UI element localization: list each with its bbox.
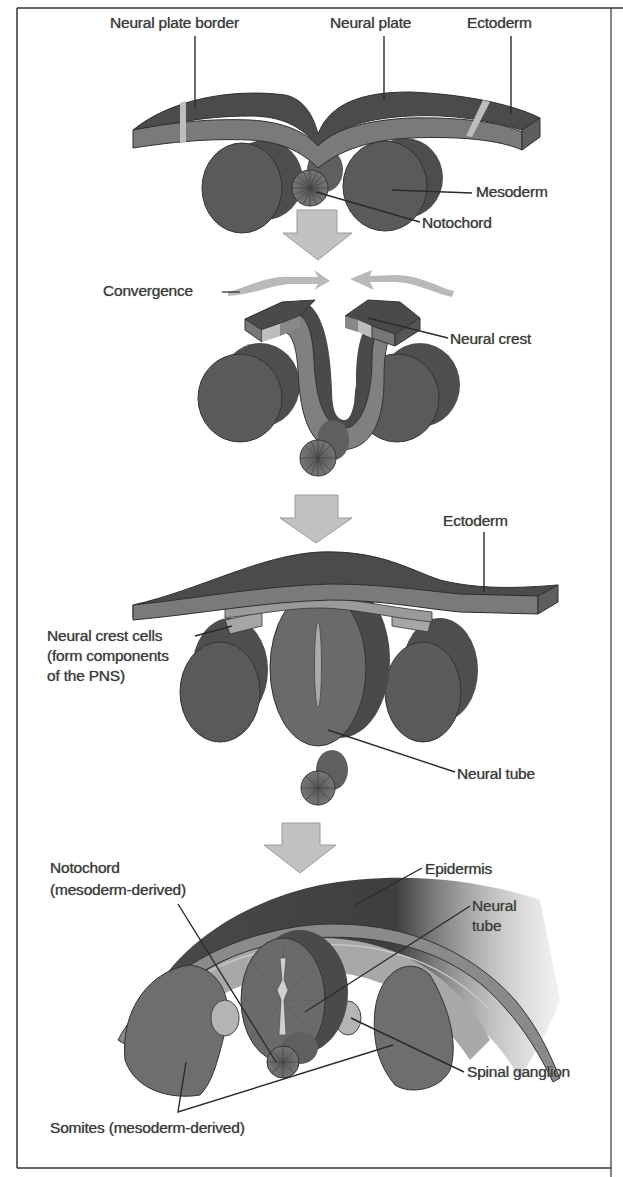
- down-arrow-icon: [283, 210, 352, 260]
- label-spinal-ganglion: Spinal ganglion: [467, 1062, 570, 1082]
- stage-2-neural-folds: [198, 270, 460, 476]
- down-arrow-icon: [280, 495, 352, 543]
- label-epidermis: Epidermis: [425, 859, 492, 879]
- somite-left: [124, 965, 228, 1096]
- label-neural-crest-cells-2: (form components: [47, 646, 169, 666]
- label-somites: Somites (mesoderm-derived): [50, 1118, 245, 1138]
- label-notochord-2-line1: Notochord: [50, 858, 120, 878]
- label-notochord: Notochord: [422, 213, 492, 233]
- label-neural-tube: Neural tube: [457, 764, 535, 784]
- mesoderm-left: [202, 143, 282, 233]
- label-ectoderm-2: Ectoderm: [443, 511, 508, 531]
- label-notochord-2-line2: (mesoderm-derived): [50, 880, 186, 900]
- mesoderm-right: [343, 141, 427, 231]
- label-neural-plate-border: Neural plate border: [110, 13, 239, 33]
- label-neural-plate: Neural plate: [330, 13, 411, 33]
- stage-1-neural-plate: [133, 36, 540, 233]
- label-neural-crest: Neural crest: [450, 329, 531, 349]
- convergence-arrow-right: [350, 270, 454, 297]
- spinal-ganglion-left: [211, 1000, 239, 1036]
- label-neural-crest-cells-3: of the PNS): [47, 666, 125, 686]
- label-mesoderm: Mesoderm: [476, 182, 548, 202]
- label-convergence: Convergence: [103, 281, 193, 301]
- label-neural-crest-cells-1: Neural crest cells: [47, 626, 162, 646]
- label-neural-tube-2-line1: Neural: [472, 896, 516, 916]
- neurulation-diagram: [0, 0, 623, 1177]
- label-ectoderm: Ectoderm: [467, 13, 532, 33]
- down-arrow-icon: [264, 823, 336, 873]
- convergence-arrow-left: [228, 270, 330, 296]
- neural-canal: [315, 622, 322, 708]
- label-neural-tube-2-line2: tube: [472, 916, 501, 936]
